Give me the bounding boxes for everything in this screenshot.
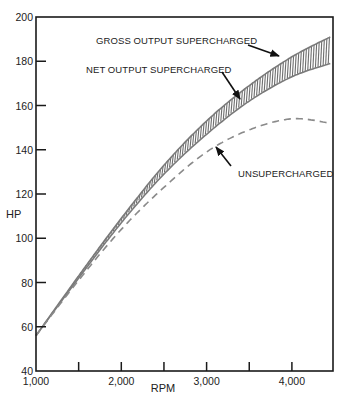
hatch-line (292, 56, 293, 76)
hatch-line (223, 105, 224, 119)
hatch-line (269, 70, 270, 87)
hatch-line (326, 39, 327, 65)
hatch-line (274, 67, 275, 85)
y-axis-title: HP (6, 208, 21, 220)
y-tick-label: 140 (15, 144, 33, 156)
hatch-line (321, 41, 322, 66)
y-tick-label: 180 (15, 55, 33, 67)
hatch-line (285, 60, 286, 79)
hatch-line (221, 107, 222, 121)
hatch-line (305, 49, 306, 71)
hatch-line (228, 101, 229, 115)
hatch-line (244, 89, 245, 104)
y-axis: 406080100120140160180200 (15, 11, 46, 377)
hatch-line (328, 37, 329, 63)
hatch-line (282, 62, 283, 81)
hatch-line (290, 57, 291, 77)
hatch-line (241, 91, 242, 106)
y-tick-label: 120 (15, 188, 33, 200)
x-tick-label: 4,000 (279, 375, 305, 387)
hatch-line (213, 114, 214, 128)
hatch-line (259, 77, 260, 93)
hatch-line (298, 53, 299, 74)
hatch-line (236, 95, 237, 110)
hatch-line (318, 42, 319, 67)
hatch-line (277, 65, 278, 83)
hatch-line (303, 50, 304, 72)
hatch-line (262, 76, 263, 93)
arrow-net-output (222, 72, 240, 99)
x-tick-label: 2,000 (108, 375, 134, 387)
net-output-supercharged-curve (36, 64, 330, 336)
x-axis-title: RPM (151, 382, 175, 394)
annotation-net-output: NET OUTPUT SUPERCHARGED (86, 64, 232, 75)
arrow-gross-output (248, 45, 279, 56)
y-tick-label: 100 (15, 232, 33, 244)
hatch-line (272, 69, 273, 87)
horsepower-vs-rpm-chart: 1,0002,0003,0004,000 4060801001201401601… (0, 0, 339, 401)
hatch-line (239, 93, 240, 108)
y-tick-label: 40 (21, 365, 33, 377)
hatch-line (267, 72, 268, 89)
hatch-line (257, 79, 258, 95)
hatch-line (216, 112, 217, 126)
hatch-line (246, 87, 247, 102)
hatch-line (313, 45, 314, 69)
y-tick-label: 80 (21, 277, 33, 289)
hatch-line (280, 64, 281, 83)
hatch-line (295, 54, 296, 75)
curves (36, 37, 330, 336)
x-tick-label: 3,000 (193, 375, 219, 387)
hatch-line (315, 44, 316, 68)
hatch-line (287, 59, 288, 78)
hatch-line (249, 85, 250, 101)
annotation-gross-output: GROSS OUTPUT SUPERCHARGED (96, 35, 257, 46)
hatch-line (226, 103, 227, 117)
hatch-line (218, 110, 219, 124)
hatch-line (234, 97, 235, 112)
hatch-line (300, 52, 301, 73)
hatch-line (310, 46, 311, 69)
gross-output-supercharged-curve (36, 37, 330, 336)
y-tick-label: 60 (21, 321, 33, 333)
annotation-unsupercharged: UNSUPERCHARGED (238, 168, 333, 179)
y-tick-label: 200 (15, 11, 33, 23)
hatch-line (254, 81, 255, 97)
hatch-line (323, 40, 324, 65)
hatch-line (251, 83, 252, 99)
arrow-unsupercharged (216, 147, 231, 166)
hatch-line (264, 74, 265, 91)
y-tick-label: 160 (15, 100, 33, 112)
hatch-line (231, 99, 232, 114)
hatch-line (211, 116, 212, 130)
hatch-line (308, 47, 309, 70)
